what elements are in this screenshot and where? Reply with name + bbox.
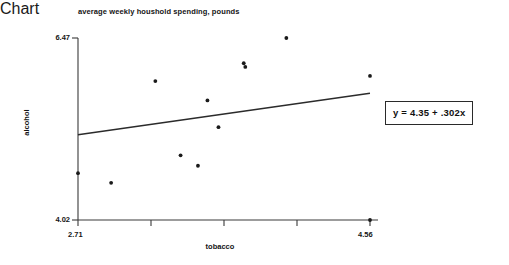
regression-line (78, 93, 370, 135)
chart-container: average weekly houshold spending, pounds… (0, 0, 509, 265)
data-point (206, 99, 210, 103)
data-point (368, 74, 372, 78)
y-axis-tick-label-top: 6.47 (36, 33, 70, 42)
y-axis-title: alcohol (22, 93, 31, 153)
data-point (153, 79, 157, 83)
data-point (284, 36, 288, 40)
x-axis-title: tobacco (0, 242, 440, 251)
data-point (196, 164, 200, 168)
data-point (217, 125, 221, 129)
data-point (76, 171, 80, 175)
x-axis-tick-label-left: 2.71 (68, 230, 83, 239)
x-axis-tick-label-right: 4.56 (358, 230, 373, 239)
plot-area (0, 0, 509, 265)
y-axis-tick-label-bottom: 4.02 (36, 215, 70, 224)
data-point (179, 153, 183, 157)
fit-line (78, 93, 370, 135)
equation-box: y = 4.35 + .302x (385, 101, 473, 125)
data-point (368, 218, 372, 222)
data-point (242, 61, 246, 65)
data-point (243, 65, 247, 69)
data-point (109, 181, 113, 185)
